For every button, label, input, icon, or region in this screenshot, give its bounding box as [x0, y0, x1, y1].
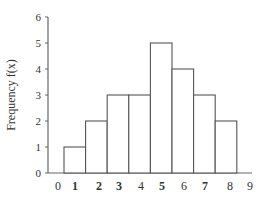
bars — [64, 43, 237, 173]
y-tick-label: 1 — [36, 141, 42, 153]
y-tick-label: 5 — [36, 37, 42, 49]
x-tick-label: 1 — [72, 179, 78, 193]
y-tick-label: 3 — [36, 89, 42, 101]
histogram-bar — [172, 69, 194, 173]
x-tick-label: 7 — [202, 179, 208, 193]
x-axis: 0123456789 — [48, 173, 253, 193]
histogram-bar — [129, 95, 151, 173]
x-tick-label: 3 — [116, 179, 122, 193]
x-tick-label: 8 — [227, 179, 233, 193]
x-tick-label: 0 — [55, 179, 61, 193]
y-tick-label: 6 — [36, 11, 42, 23]
y-tick-label: 0 — [36, 167, 42, 179]
x-tick-label: 6 — [181, 179, 187, 193]
x-tick-label: 4 — [138, 179, 144, 193]
histogram-bar — [194, 95, 216, 173]
y-axis-label: Frequency f(x) — [4, 59, 18, 131]
histogram-bar — [107, 95, 129, 173]
histogram-bar — [150, 43, 172, 173]
y-tick-label: 2 — [36, 115, 42, 127]
histogram-chart: 0123456 0123456789 Frequency f(x) — [0, 0, 266, 199]
y-axis: 0123456 — [36, 11, 49, 179]
y-tick-label: 4 — [36, 63, 42, 75]
histogram-bar — [86, 121, 108, 173]
x-tick-label: 5 — [159, 179, 165, 193]
histogram-bar — [215, 121, 237, 173]
x-tick-label: 9 — [247, 179, 253, 193]
histogram-bar — [64, 147, 86, 173]
x-tick-label: 2 — [96, 179, 102, 193]
